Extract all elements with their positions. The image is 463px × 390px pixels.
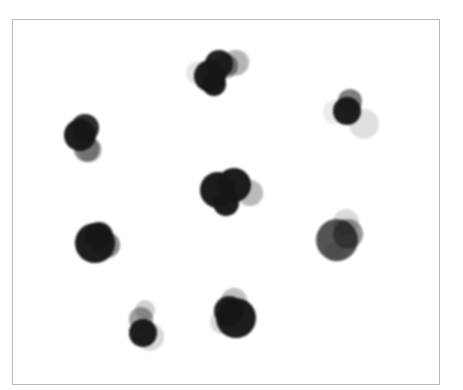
blob-cluster-mid-left <box>75 222 120 263</box>
blob-circle <box>64 119 96 151</box>
blob-circle <box>129 319 157 347</box>
blob-circle <box>333 97 361 125</box>
blob-figure <box>0 0 463 390</box>
blob-cluster-mid-right <box>316 209 363 262</box>
blob-cluster-top <box>186 50 250 96</box>
blob-circle <box>213 190 239 216</box>
blob-clusters <box>0 0 463 390</box>
blob-cluster-upper-right <box>323 89 379 139</box>
blob-circle <box>85 222 113 250</box>
blob-circle <box>316 219 358 261</box>
blob-circle <box>216 298 256 338</box>
blob-cluster-bottom-left <box>129 300 164 351</box>
blob-circle <box>202 72 226 96</box>
blob-cluster-center <box>200 168 263 216</box>
blob-cluster-bottom-center <box>210 288 256 338</box>
blob-cluster-upper-left <box>64 114 102 162</box>
